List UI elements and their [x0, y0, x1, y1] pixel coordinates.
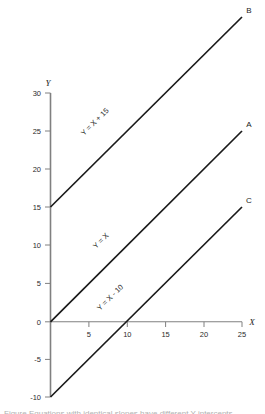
y-tick-label-0: 0 [37, 318, 41, 327]
series-end-label-c: C [246, 196, 252, 205]
y-tick-label-10: 10 [33, 241, 41, 250]
annotation-equation-c: Y = X - 10 [95, 283, 125, 313]
series-end-label-b: B [246, 6, 251, 15]
figure-caption: Figure Equations with identical slopes h… [4, 406, 262, 414]
y-tick-label-15: 15 [33, 203, 41, 212]
y-axis-label: Y [45, 78, 51, 88]
series-end-label-a: A [246, 120, 252, 129]
y-axis-ticks [45, 93, 51, 397]
y-tick-label-5: 5 [37, 279, 41, 288]
annotation-equation-b: Y = X + 15 [79, 106, 110, 137]
x-tick-label-20: 20 [200, 330, 208, 339]
x-tick-label-25: 25 [238, 330, 246, 339]
y-tick-label-neg10: -10 [30, 393, 41, 402]
series-line-c[interactable] [51, 207, 243, 397]
y-tick-label-20: 20 [33, 165, 41, 174]
y-axis-tick-labels: 30 25 20 15 10 5 0 -5 -10 [30, 89, 41, 402]
y-tick-label-neg5: -5 [34, 355, 41, 364]
series-line-b[interactable] [51, 17, 243, 207]
line-chart-svg: 30 25 20 15 10 5 0 -5 -10 5 10 15 20 25 [0, 0, 265, 414]
x-tick-label-10: 10 [123, 330, 131, 339]
axes-group [51, 93, 243, 397]
y-tick-label-25: 25 [33, 127, 41, 136]
chart-figure: 30 25 20 15 10 5 0 -5 -10 5 10 15 20 25 [0, 0, 265, 414]
x-tick-label-5: 5 [87, 330, 91, 339]
y-tick-label-30: 30 [33, 89, 41, 98]
series-line-a[interactable] [51, 131, 243, 322]
x-tick-label-15: 15 [161, 330, 169, 339]
x-axis-label: X [248, 317, 255, 327]
annotation-equation-a: Y = X [91, 231, 110, 250]
x-axis-ticks [89, 322, 242, 327]
